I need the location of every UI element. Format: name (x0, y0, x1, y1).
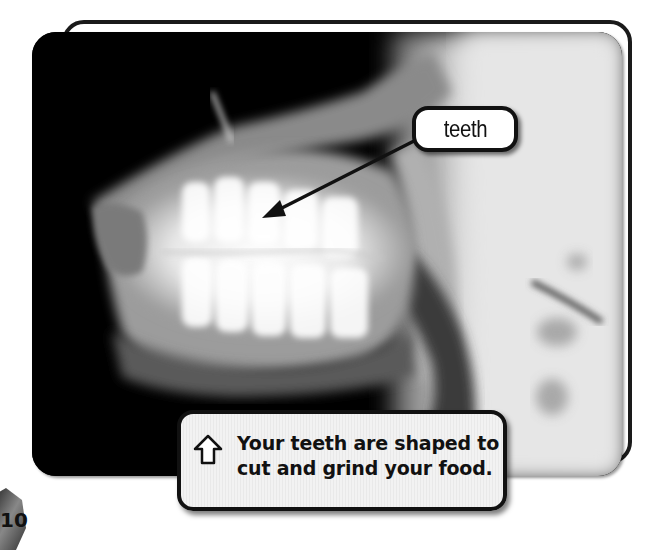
teeth-label-text: teeth (443, 115, 486, 143)
caption-line-2: cut and grind your food. (237, 456, 507, 481)
caption-text: Your teeth are shaped to cut and grind y… (237, 431, 507, 481)
teeth-label-callout: teeth (412, 106, 518, 152)
caption-line-1: Your teeth are shaped to (237, 431, 507, 456)
up-arrow-icon (193, 434, 223, 466)
page-number: 10 (0, 508, 28, 532)
caption-box: Your teeth are shaped to cut and grind y… (177, 410, 507, 511)
